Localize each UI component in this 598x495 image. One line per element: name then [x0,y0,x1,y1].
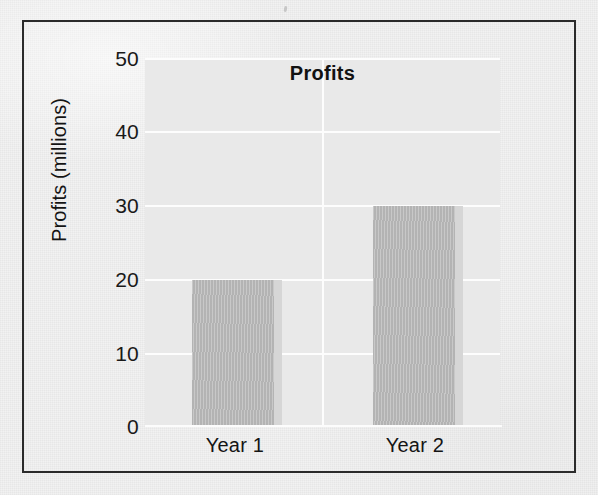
y-axis-label: Profits (millions) [48,2,71,242]
gridline-x-center [322,58,324,427]
y-tick-label-0: 0 [99,416,139,437]
y-tick-label-40: 40 [99,121,139,142]
y-tick-label-50: 50 [99,48,139,69]
plot-area [145,58,500,427]
y-tick-label-30: 30 [99,195,139,216]
x-tick-label-year-2: Year 2 [340,434,490,457]
x-tick-label-year-1: Year 1 [160,434,310,457]
x-axis-baseline [145,425,502,427]
y-tick-label-20: 20 [99,269,139,290]
chart-title: Profits [145,62,500,85]
bar-chart: Profits Profits (millions) 50 40 30 20 1… [0,0,598,495]
y-axis-tick-labels: 50 40 30 20 10 0 [95,0,139,495]
bar-year-1[interactable] [192,280,274,427]
scanned-page: Profits Profits (millions) 50 40 30 20 1… [0,0,598,495]
y-tick-label-10: 10 [99,343,139,364]
bar-year-2[interactable] [373,206,455,427]
